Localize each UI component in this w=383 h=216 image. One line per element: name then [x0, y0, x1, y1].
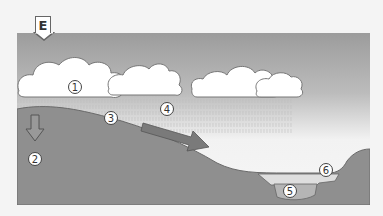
figure-label-e: E [35, 16, 51, 33]
svg-text:2: 2 [32, 154, 38, 165]
marker-5: 5 [284, 185, 297, 198]
svg-text:3: 3 [108, 113, 114, 124]
marker-2: 2 [29, 153, 42, 166]
water-cycle-diagram: 1 2 3 4 5 6 [17, 33, 370, 205]
svg-text:1: 1 [72, 82, 78, 93]
svg-text:5: 5 [287, 186, 293, 197]
svg-text:6: 6 [323, 165, 329, 176]
marker-3: 3 [105, 112, 118, 125]
marker-4: 4 [161, 103, 174, 116]
svg-text:4: 4 [164, 104, 170, 115]
label-pointer [33, 32, 55, 42]
marker-1: 1 [69, 81, 82, 94]
marker-6: 6 [320, 164, 333, 177]
figure-label-text: E [39, 18, 48, 33]
